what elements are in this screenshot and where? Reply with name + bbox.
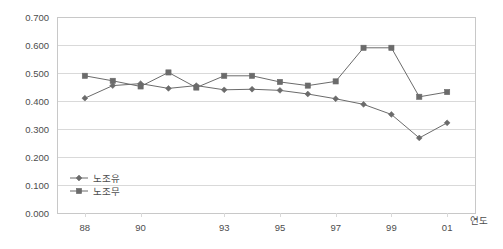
data-point-marker-square	[194, 85, 199, 90]
data-point-marker-square	[361, 45, 366, 50]
x-axis-tick-label: 90	[135, 222, 146, 233]
data-point-marker-square	[249, 73, 254, 78]
y-axis-tick-label: 0.000	[25, 208, 49, 219]
x-axis-tick-marks	[85, 213, 447, 217]
y-axis-tick-label: 0.600	[25, 40, 49, 51]
legend-item-label: 노조유	[93, 173, 120, 184]
x-axis-tick-label: 99	[386, 222, 397, 233]
x-axis-title: 연도	[470, 215, 488, 226]
data-point-marker-square	[305, 83, 310, 88]
data-point-marker-square	[222, 73, 227, 78]
x-axis-tick-label: 88	[80, 222, 91, 233]
y-axis-tick-label: 0.300	[25, 124, 49, 135]
x-axis-tick-labels: 88909395979901	[80, 222, 453, 233]
line-chart: 0.0000.1000.2000.3000.4000.5000.6000.700…	[0, 0, 503, 249]
plot-area-background	[57, 17, 475, 213]
x-axis-tick-label: 97	[330, 222, 341, 233]
y-axis-tick-label: 0.700	[25, 12, 49, 23]
x-axis-tick-label: 01	[442, 222, 453, 233]
y-axis-tick-label: 0.500	[25, 68, 49, 79]
data-point-marker-square	[445, 89, 450, 94]
x-axis-tick-label: 95	[275, 222, 286, 233]
data-point-marker-square	[138, 84, 143, 89]
y-axis-tick-labels: 0.0000.1000.2000.3000.4000.5000.6000.700	[25, 12, 49, 219]
x-axis-tick-label: 93	[219, 222, 230, 233]
y-axis-tick-label: 0.400	[25, 96, 49, 107]
chart-canvas: 0.0000.1000.2000.3000.4000.5000.6000.700…	[0, 0, 503, 249]
y-axis-tick-label: 0.100	[25, 180, 49, 191]
data-point-marker-square	[82, 73, 87, 78]
y-axis-tick-label: 0.200	[25, 152, 49, 163]
legend-item-label: 노조무	[93, 186, 120, 197]
data-point-marker-square	[277, 79, 282, 84]
data-point-marker-square	[110, 78, 115, 83]
data-point-marker-square	[417, 94, 422, 99]
data-point-marker-square	[76, 188, 81, 193]
data-point-marker-square	[389, 45, 394, 50]
data-point-marker-square	[166, 70, 171, 75]
data-point-marker-square	[333, 79, 338, 84]
